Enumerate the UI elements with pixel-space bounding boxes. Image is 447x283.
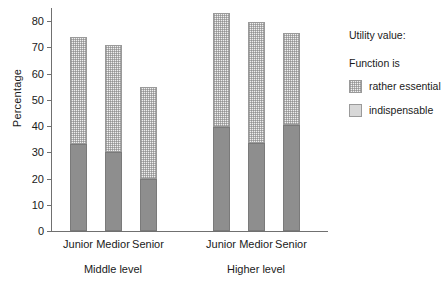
legend-entry-label: indispensable <box>369 105 433 116</box>
y-tick-mark <box>47 152 51 153</box>
y-tick-label: 30 <box>32 147 44 158</box>
bar <box>105 45 122 231</box>
bar <box>70 37 87 231</box>
y-tick-label: 70 <box>32 42 44 53</box>
bar-segment-indispensable <box>283 125 300 231</box>
y-tick-mark <box>47 231 51 232</box>
bar-segment-rather-essential <box>105 45 122 153</box>
y-tick-mark <box>47 126 51 127</box>
legend-entries: rather essentialindispensable <box>349 80 447 117</box>
bar-segment-rather-essential <box>213 13 230 127</box>
y-tick-mark <box>47 205 51 206</box>
y-tick-mark <box>47 100 51 101</box>
y-axis-title: Percentage <box>11 43 23 153</box>
bar <box>213 13 230 231</box>
legend-swatch-essential <box>349 80 362 93</box>
x-axis-line <box>51 231 328 232</box>
x-tick-label: Senior <box>275 239 307 250</box>
bar-segment-indispensable <box>70 144 87 231</box>
bar <box>140 87 157 231</box>
legend-entry: indispensable <box>349 104 447 117</box>
y-axis-line <box>51 8 52 232</box>
y-tick-mark <box>47 47 51 48</box>
legend-title: Utility value: <box>349 30 447 41</box>
bar-segment-rather-essential <box>140 87 157 179</box>
y-tick-label: 50 <box>32 94 44 105</box>
y-tick-label: 40 <box>32 121 44 132</box>
legend: Utility value: Function is rather essent… <box>349 30 447 128</box>
bar <box>283 33 300 231</box>
x-tick-label: Junior <box>63 239 93 250</box>
stacked-bar-chart: Percentage 01020304050607080 JuniorMedio… <box>0 0 447 283</box>
bar-segment-indispensable <box>105 152 122 231</box>
bar-segment-indispensable <box>140 179 157 231</box>
y-tick-label: 60 <box>32 68 44 79</box>
x-tick-label: Medior <box>96 239 130 250</box>
x-tick-label: Senior <box>132 239 164 250</box>
y-tick-label: 20 <box>32 173 44 184</box>
legend-subtitle: Function is <box>349 58 447 69</box>
x-tick-label: Medior <box>239 239 273 250</box>
bar-segment-rather-essential <box>248 22 265 143</box>
group-label: Higher level <box>227 264 285 275</box>
bar-segment-indispensable <box>248 143 265 231</box>
y-tick-label: 80 <box>32 16 44 27</box>
x-tick-label: Junior <box>206 239 236 250</box>
bar-segment-rather-essential <box>283 33 300 125</box>
plot-area: 01020304050607080 JuniorMediorSeniorJuni… <box>51 8 328 232</box>
bar-segment-indispensable <box>213 127 230 231</box>
bar <box>248 22 265 231</box>
y-tick-label: 0 <box>38 226 44 237</box>
y-tick-mark <box>47 179 51 180</box>
legend-swatch-indispensable <box>349 104 362 117</box>
legend-entry: rather essential <box>349 80 447 93</box>
y-tick-mark <box>47 21 51 22</box>
group-label: Middle level <box>84 264 142 275</box>
legend-entry-label: rather essential <box>369 81 441 92</box>
y-tick-mark <box>47 74 51 75</box>
bar-segment-rather-essential <box>70 37 87 145</box>
y-tick-label: 10 <box>32 199 44 210</box>
